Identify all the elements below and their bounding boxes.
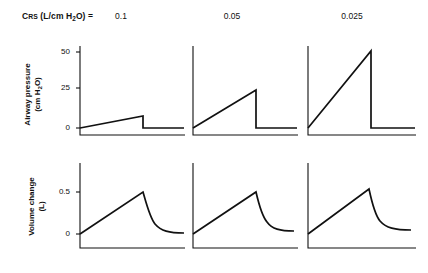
figure-canvas: CRS (L/cm H2O) = 0.1 0.05 0.025 Airway p… [0, 0, 428, 273]
volume-waveform [80, 192, 184, 234]
volume-panel-3 [307, 163, 417, 255]
pressure-panel-1 [79, 46, 186, 142]
crs-label-units-end: O) = [76, 11, 93, 21]
pressure-axis-title: Airway pressure (cm H2O) [23, 45, 44, 145]
volume-panel-1 [79, 163, 186, 255]
pressure-waveform [80, 116, 184, 128]
panel-axes [308, 46, 416, 135]
pressure-panel-2 [192, 46, 299, 142]
pressure-waveform [193, 90, 297, 128]
crs-label-units: (L/cm H [38, 11, 72, 21]
volume-tick-label-05: 0.5 [44, 188, 70, 196]
pressure-tick-label-25: 25 [48, 84, 70, 92]
pressure-panel-3 [307, 46, 417, 142]
panel-axes [80, 46, 185, 135]
crs-parameter-label: CRS (L/cm H2O) = [22, 12, 93, 22]
crs-label-rs: RS [28, 13, 38, 20]
pressure-tick-label-50: 50 [48, 48, 70, 56]
pressure-axis-title-line2-sub: 2 [35, 86, 42, 89]
volume-axis-title: Volume change (L) [27, 157, 46, 257]
pressure-tick-label-0: 0 [48, 124, 70, 132]
pressure-axis-title-line2-end: O) [32, 77, 41, 86]
panel-axes [80, 163, 185, 248]
volume-axis-title-line1: Volume change [27, 177, 36, 236]
volume-waveform [308, 189, 411, 234]
crs-value-column-3: 0.025 [341, 12, 362, 21]
volume-axis-title-line2: (L) [36, 201, 45, 211]
volume-tick-label-0: 0 [44, 230, 70, 238]
crs-value-column-2: 0.05 [224, 12, 241, 21]
pressure-axis-title-line1: Airway pressure [23, 63, 32, 125]
panel-axes [193, 46, 298, 135]
pressure-axis-title-line2: (cm H [32, 90, 41, 112]
volume-waveform [193, 192, 294, 234]
panel-axes [193, 163, 298, 248]
volume-panel-2 [192, 163, 299, 255]
pressure-waveform [308, 51, 415, 128]
crs-value-column-1: 0.1 [115, 12, 127, 21]
panel-axes [308, 163, 416, 248]
